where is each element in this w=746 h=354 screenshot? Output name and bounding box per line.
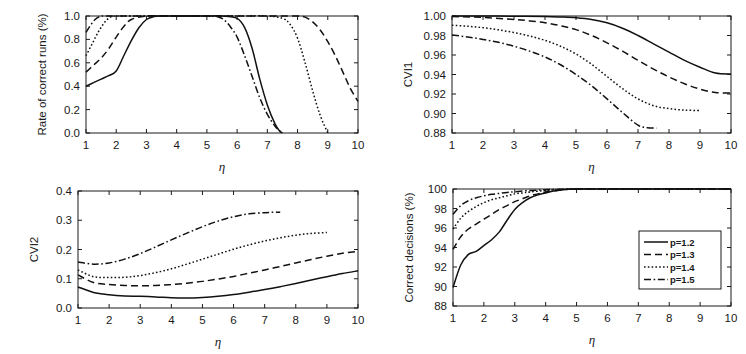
x-axis-title: η bbox=[588, 159, 594, 174]
figure-container: 123456789100.00.20.40.60.81.0ηRate of co… bbox=[0, 0, 746, 354]
x-tick-label: 9 bbox=[697, 312, 703, 324]
x-tick-label: 1 bbox=[75, 314, 81, 326]
x-tick-label: 10 bbox=[352, 314, 365, 326]
y-tick-label: 0.2 bbox=[56, 244, 72, 256]
y-tick-label: 90 bbox=[434, 281, 447, 293]
y-tick-label: 0.0 bbox=[56, 302, 72, 314]
y-axis-title: Rate of correct runs (%) bbox=[36, 13, 48, 135]
x-tick-label: 2 bbox=[480, 139, 486, 151]
series-line-p12 bbox=[452, 16, 731, 74]
x-tick-label: 3 bbox=[511, 139, 517, 151]
x-tick-label: 4 bbox=[168, 314, 175, 326]
x-axis-title: η bbox=[215, 334, 221, 349]
y-axis-title: CVI1 bbox=[402, 62, 414, 88]
x-tick-label: 2 bbox=[113, 139, 119, 151]
series-line-p13 bbox=[86, 16, 358, 102]
y-tick-label: 0.6 bbox=[64, 57, 80, 69]
subplot-correct-decisions: 12345678910889092949698100ηCorrect decis… bbox=[373, 177, 746, 354]
legend-label-p13: p=1.3 bbox=[670, 249, 695, 260]
y-tick-label: 96 bbox=[434, 222, 447, 234]
legend-label-p15: p=1.5 bbox=[670, 274, 695, 285]
x-tick-label: 1 bbox=[83, 139, 89, 151]
series-line-p14 bbox=[453, 189, 731, 229]
series-line-p13 bbox=[452, 16, 731, 93]
x-tick-label: 1 bbox=[449, 139, 455, 151]
x-tick-label: 9 bbox=[697, 139, 703, 151]
y-tick-label: 0.98 bbox=[424, 30, 446, 42]
x-tick-label: 7 bbox=[264, 139, 270, 151]
y-tick-label: 92 bbox=[434, 261, 447, 273]
x-axis-title: η bbox=[589, 332, 595, 347]
y-tick-label: 0.92 bbox=[424, 88, 446, 100]
y-tick-label: 1.0 bbox=[64, 10, 80, 22]
x-tick-label: 5 bbox=[573, 312, 579, 324]
x-tick-label: 3 bbox=[512, 312, 518, 324]
x-tick-label: 6 bbox=[230, 314, 236, 326]
legend-label-p12: p=1.2 bbox=[670, 237, 695, 248]
y-tick-label: 0.96 bbox=[424, 49, 446, 61]
x-tick-label: 5 bbox=[573, 139, 579, 151]
plot-canvas-cvi2: 123456789100.00.10.20.30.4ηCVI2 bbox=[0, 177, 373, 354]
x-tick-label: 6 bbox=[234, 139, 240, 151]
x-tick-label: 8 bbox=[293, 314, 299, 326]
x-tick-label: 4 bbox=[542, 312, 549, 324]
y-tick-label: 88 bbox=[434, 300, 447, 312]
series-line-p14 bbox=[78, 233, 327, 278]
plot-frame bbox=[86, 16, 358, 133]
x-axis-title: η bbox=[219, 159, 225, 174]
plot-frame bbox=[78, 191, 358, 308]
series-line-p12 bbox=[78, 271, 358, 298]
x-tick-label: 2 bbox=[481, 312, 487, 324]
plot-canvas-cvi1: 123456789100.880.900.920.940.960.981.00η… bbox=[373, 0, 746, 177]
series-line-p14 bbox=[86, 16, 328, 133]
y-tick-label: 0.2 bbox=[64, 104, 80, 116]
x-tick-label: 3 bbox=[137, 314, 143, 326]
y-tick-label: 0.90 bbox=[424, 108, 446, 120]
y-tick-label: 0.3 bbox=[56, 214, 72, 226]
series-line-p15 bbox=[452, 35, 657, 128]
y-tick-label: 1.00 bbox=[424, 10, 446, 22]
plot-canvas-rate-of-correct-runs: 123456789100.00.20.40.60.81.0ηRate of co… bbox=[0, 0, 373, 177]
x-tick-label: 7 bbox=[635, 139, 641, 151]
y-tick-label: 100 bbox=[428, 183, 447, 195]
series-line-p15 bbox=[453, 189, 731, 214]
x-tick-label: 5 bbox=[199, 314, 205, 326]
y-tick-label: 94 bbox=[434, 242, 447, 254]
subplot-rate-of-correct-runs: 123456789100.00.20.40.60.81.0ηRate of co… bbox=[0, 0, 373, 177]
y-tick-label: 0.4 bbox=[64, 80, 81, 92]
y-tick-label: 98 bbox=[434, 203, 447, 215]
plot-frame bbox=[452, 16, 731, 133]
series-line-p13 bbox=[78, 251, 358, 286]
y-tick-label: 0.1 bbox=[56, 273, 72, 285]
y-tick-label: 0.8 bbox=[64, 33, 80, 45]
x-tick-label: 8 bbox=[294, 139, 300, 151]
y-axis-title: Correct decisions (%) bbox=[403, 192, 415, 302]
x-tick-label: 6 bbox=[604, 139, 610, 151]
x-tick-label: 3 bbox=[143, 139, 149, 151]
series-line-p15 bbox=[78, 212, 280, 264]
legend-label-p14: p=1.4 bbox=[670, 262, 695, 273]
x-tick-label: 10 bbox=[725, 312, 738, 324]
x-tick-label: 7 bbox=[261, 314, 267, 326]
x-tick-label: 8 bbox=[666, 312, 672, 324]
series-line-p12 bbox=[86, 16, 282, 133]
subplot-cvi2: 123456789100.00.10.20.30.4ηCVI2 bbox=[0, 177, 373, 354]
x-tick-label: 5 bbox=[204, 139, 210, 151]
y-tick-label: 0.94 bbox=[424, 69, 447, 81]
x-tick-label: 4 bbox=[173, 139, 180, 151]
plot-canvas-correct-decisions: 12345678910889092949698100ηCorrect decis… bbox=[373, 177, 746, 354]
series-line-p14 bbox=[452, 25, 700, 110]
x-tick-label: 6 bbox=[604, 312, 610, 324]
y-tick-label: 0.88 bbox=[424, 127, 446, 139]
x-tick-label: 2 bbox=[106, 314, 112, 326]
y-tick-label: 0.0 bbox=[64, 127, 80, 139]
y-axis-title: CVI2 bbox=[28, 237, 40, 263]
x-tick-label: 10 bbox=[352, 139, 365, 151]
x-tick-label: 7 bbox=[635, 312, 641, 324]
x-tick-label: 1 bbox=[450, 312, 456, 324]
x-tick-label: 9 bbox=[325, 139, 331, 151]
y-tick-label: 0.4 bbox=[56, 185, 73, 197]
subplot-cvi1: 123456789100.880.900.920.940.960.981.00η… bbox=[373, 0, 746, 177]
series-line-p15 bbox=[86, 16, 282, 133]
x-tick-label: 9 bbox=[324, 314, 330, 326]
